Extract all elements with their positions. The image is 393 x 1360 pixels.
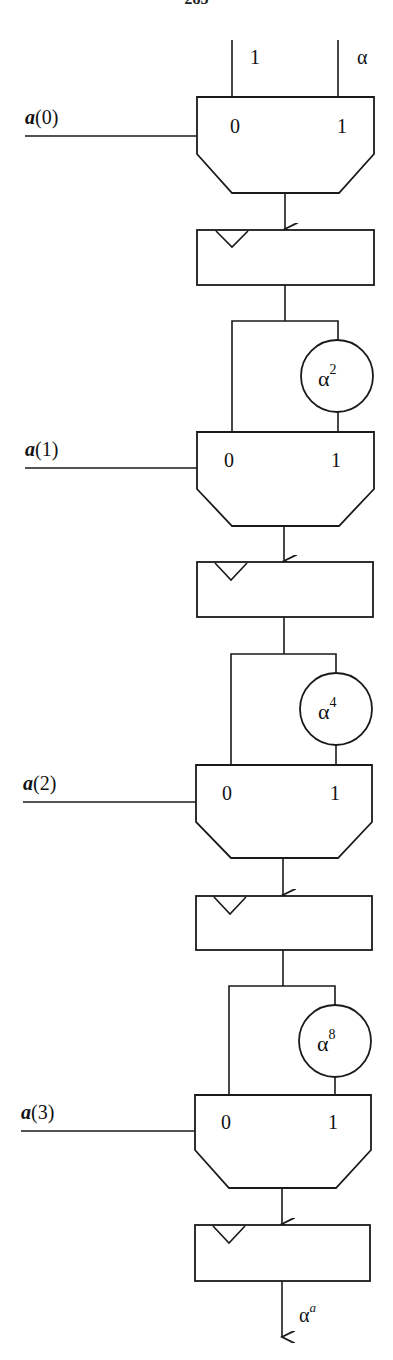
multiplexer-0 — [197, 97, 374, 193]
stage-0: a(0) 0 1 — [25, 97, 374, 321]
exponentiation-circuit-diagram: 1 α a(0) 0 1 α2 a(1) 0 1 α4 a(2) — [0, 0, 393, 1360]
multiplexer-3 — [195, 1095, 371, 1188]
register-2 — [196, 896, 372, 950]
mux-0-input-0-label: 0 — [230, 115, 240, 137]
mux-1-input-0-label: 0 — [224, 449, 234, 471]
mux-3-input-0-label: 0 — [221, 1111, 231, 1133]
register-1 — [197, 562, 373, 617]
multiplexer-2 — [196, 765, 372, 858]
mux-2-input-0-label: 0 — [222, 782, 232, 804]
multiplier-alpha-2 — [301, 340, 373, 412]
output: αa — [282, 1281, 316, 1337]
stage-3: α8 a(3) 0 1 — [21, 986, 371, 1281]
mux-2-input-1-label: 1 — [330, 782, 340, 804]
input-wires: 1 α — [232, 40, 368, 97]
select-label-0: a(0) — [25, 106, 58, 129]
register-3 — [195, 1225, 370, 1281]
select-label-2: a(2) — [23, 772, 56, 795]
stage-1: α2 a(1) 0 1 — [25, 321, 374, 654]
input-label-1: 1 — [250, 46, 260, 68]
mux-3-input-1-label: 1 — [328, 1111, 338, 1133]
mux-1-input-1-label: 1 — [331, 449, 341, 471]
multiplexer-1 — [197, 432, 374, 526]
select-label-1: a(1) — [25, 438, 58, 461]
input-label-alpha: α — [357, 46, 368, 68]
stage-2: α4 a(2) 0 1 — [23, 654, 372, 986]
mux-0-input-1-label: 1 — [337, 115, 347, 137]
output-label: αa — [299, 1300, 316, 1326]
select-label-3: a(3) — [21, 1101, 54, 1124]
